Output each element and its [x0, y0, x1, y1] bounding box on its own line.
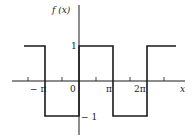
x-axis-label: x — [180, 84, 185, 94]
x-axis-minor-ticks — [28, 77, 164, 81]
y-axis-label: f (x) — [51, 5, 71, 15]
x-tick-label-pi: π — [106, 84, 112, 94]
x-tick-label-zero: 0 — [70, 84, 76, 94]
y-tick-label-minus-1: − 1 — [81, 112, 97, 122]
x-tick-label-2pi: 2π — [134, 84, 146, 94]
square-wave-plot: f (x) 1 − 1 − π 0 π 2π x — [0, 0, 193, 140]
x-tick-label-minus-pi: − π — [30, 84, 46, 94]
y-tick-label-1: 1 — [71, 41, 77, 51]
